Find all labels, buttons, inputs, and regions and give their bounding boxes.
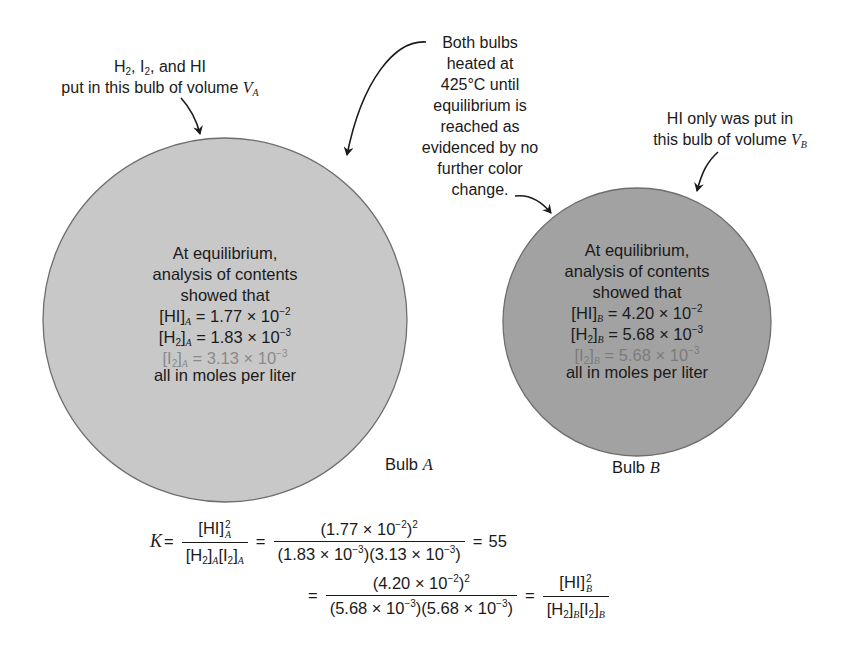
analysis-intro-line: At equilibrium, <box>125 243 325 264</box>
bulb-subscript: B <box>597 313 603 324</box>
equals-sign: = <box>473 532 483 551</box>
exponent: −3 <box>280 327 291 338</box>
subscript: B <box>599 609 605 620</box>
heating-note-line: heated at <box>420 53 540 74</box>
subscript: A <box>253 87 259 98</box>
bulb-label-prefix: Bulb <box>612 458 645 476</box>
heating-note-line: evidenced by no <box>420 137 540 158</box>
value: )(3.13 × 10 <box>364 545 444 563</box>
sup-sub: 2A <box>225 520 231 540</box>
arrow-icon <box>347 42 426 155</box>
equals-sign: = <box>525 586 535 605</box>
heating-note-line: Both bulbs <box>420 32 540 53</box>
heating-note-line: reached as <box>420 116 540 137</box>
text-span: [H <box>547 600 564 618</box>
bulb-a-label: Bulb A <box>385 455 433 475</box>
bulb-subscript: A <box>186 337 192 348</box>
analysis-intro-line: analysis of contents <box>125 264 325 285</box>
bulb-subscript: B <box>598 334 604 345</box>
text-span: ) <box>455 545 461 563</box>
bulb-a-fill-note-line2: put in this bulb of volume VA <box>10 77 310 98</box>
species: [HI] <box>559 573 585 591</box>
species: HI <box>164 307 181 325</box>
bulb-subscript: A <box>225 530 231 540</box>
subscript: A <box>238 555 244 566</box>
bulb-label-letter: A <box>423 455 433 474</box>
analysis-intro-line: showed that <box>537 282 737 303</box>
text-span: , and HI <box>150 58 206 75</box>
value: (1.83 × 10 <box>278 545 353 563</box>
bulb-b-label: Bulb B <box>612 458 660 478</box>
fraction-numerator: (4.20 × 10−2)2 <box>369 573 474 595</box>
bulb-label-prefix: Bulb <box>385 455 418 473</box>
exponent: −2 <box>395 519 406 530</box>
exponent: −3 <box>444 544 455 555</box>
bulb-a-fill-note-line1: H2, I2, and HI <box>10 56 310 77</box>
fraction-numerator: [HI]2A <box>194 518 235 542</box>
fraction-denominator: (5.68 × 10−3)(5.68 × 10−3) <box>326 595 517 618</box>
fraction-denominator: [H2]B[I2]B <box>543 596 609 619</box>
species: HI <box>576 304 593 322</box>
species: H <box>163 328 175 346</box>
heating-note-line: further color <box>420 158 540 179</box>
text-span: put in this bulb of volume <box>61 79 238 96</box>
bulb-subscript: B <box>586 584 592 594</box>
heating-note-line: change. <box>420 179 540 200</box>
exponent: −2 <box>279 306 290 317</box>
bulb-subscript: A <box>185 316 191 327</box>
text-span: [I <box>579 600 588 618</box>
bulb-b-fill-note: HI only was put in this bulb of volume V… <box>630 108 830 150</box>
value: (5.68 × 10 <box>330 599 405 617</box>
exponent: 2 <box>464 573 470 584</box>
value: (4.20 × 10 <box>373 574 448 592</box>
bulb-a-analysis: At equilibrium, analysis of contents sho… <box>125 243 325 386</box>
text-span: , I <box>131 58 144 75</box>
concentration-row-hi: [HI]B = 4.20 × 10−2 <box>537 303 737 324</box>
fraction-numerator: (1.77 × 10−2)2 <box>317 519 422 541</box>
equals-sign: = <box>164 532 174 551</box>
bulb-label-letter: B <box>650 458 660 477</box>
concentration-value: 4.20 × 10 <box>622 304 691 322</box>
arrow-icon <box>181 98 200 134</box>
bulb-b-fill-note-line2: this bulb of volume VB <box>630 129 830 150</box>
bulb-b-fill-note-line1: HI only was put in <box>630 108 830 129</box>
units-note: all in moles per liter <box>537 362 737 383</box>
k-result: 55 <box>488 532 506 551</box>
equilibrium-constant-equation-line1: K = [HI]2A [H2]A[I2]A = (1.77 × 10−2)2 (… <box>150 518 507 565</box>
exponent: −3 <box>352 544 363 555</box>
equals-sign: = <box>308 586 318 605</box>
species: [HI] <box>198 519 224 537</box>
concentration-value: 5.68 × 10 <box>622 325 691 343</box>
sup-sub: 2B <box>586 574 592 594</box>
volume-symbol: V <box>243 79 253 96</box>
symbolic-fraction-a: [HI]2A [H2]A[I2]A <box>182 518 248 565</box>
species-subscript: 2 <box>175 337 181 348</box>
equals-sign: = <box>256 532 266 551</box>
exponent: −3 <box>404 598 415 609</box>
equilibrium-constant-equation-line2: = (4.20 × 10−2)2 (5.68 × 10−3)(5.68 × 10… <box>306 572 615 619</box>
exponent: −3 <box>496 598 507 609</box>
analysis-intro-line: analysis of contents <box>537 261 737 282</box>
analysis-intro-line: At equilibrium, <box>537 240 737 261</box>
numeric-fraction-a: (1.77 × 10−2)2 (1.83 × 10−3)(3.13 × 10−3… <box>274 519 465 564</box>
volume-symbol: V <box>791 131 801 148</box>
exponent: −3 <box>276 348 287 359</box>
text-span: ) <box>507 599 513 617</box>
analysis-intro-line: showed that <box>125 285 325 306</box>
value: )(5.68 × 10 <box>416 599 496 617</box>
exponent: −2 <box>691 303 702 314</box>
concentration-value: 1.83 × 10 <box>210 328 279 346</box>
bulb-b-analysis: At equilibrium, analysis of contents sho… <box>537 240 737 383</box>
species-subscript: 2 <box>587 334 593 345</box>
k-symbol: K <box>150 531 162 552</box>
fraction-numerator: [HI]2B <box>555 572 596 596</box>
fraction-denominator: (1.83 × 10−3)(3.13 × 10−3) <box>274 541 465 564</box>
species: H <box>575 325 587 343</box>
text-span: [I <box>218 546 227 564</box>
arrow-icon <box>697 152 718 191</box>
value: (1.77 × 10 <box>321 520 396 538</box>
text-span: this bulb of volume <box>653 131 786 148</box>
exponent: 2 <box>412 519 418 530</box>
fraction-denominator: [H2]A[I2]A <box>182 542 248 565</box>
heating-note-line: equilibrium is <box>420 95 540 116</box>
